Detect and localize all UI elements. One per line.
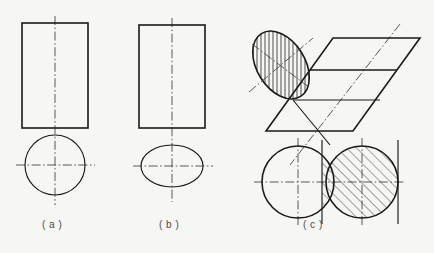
engineering-drawing-canvas <box>0 0 434 253</box>
caption-b: ( b ) <box>159 219 179 230</box>
figure-root: ( a ) ( b ) ( c ) <box>0 0 434 253</box>
caption-a: ( a ) <box>42 219 62 230</box>
caption-c: ( c ) <box>303 219 323 230</box>
